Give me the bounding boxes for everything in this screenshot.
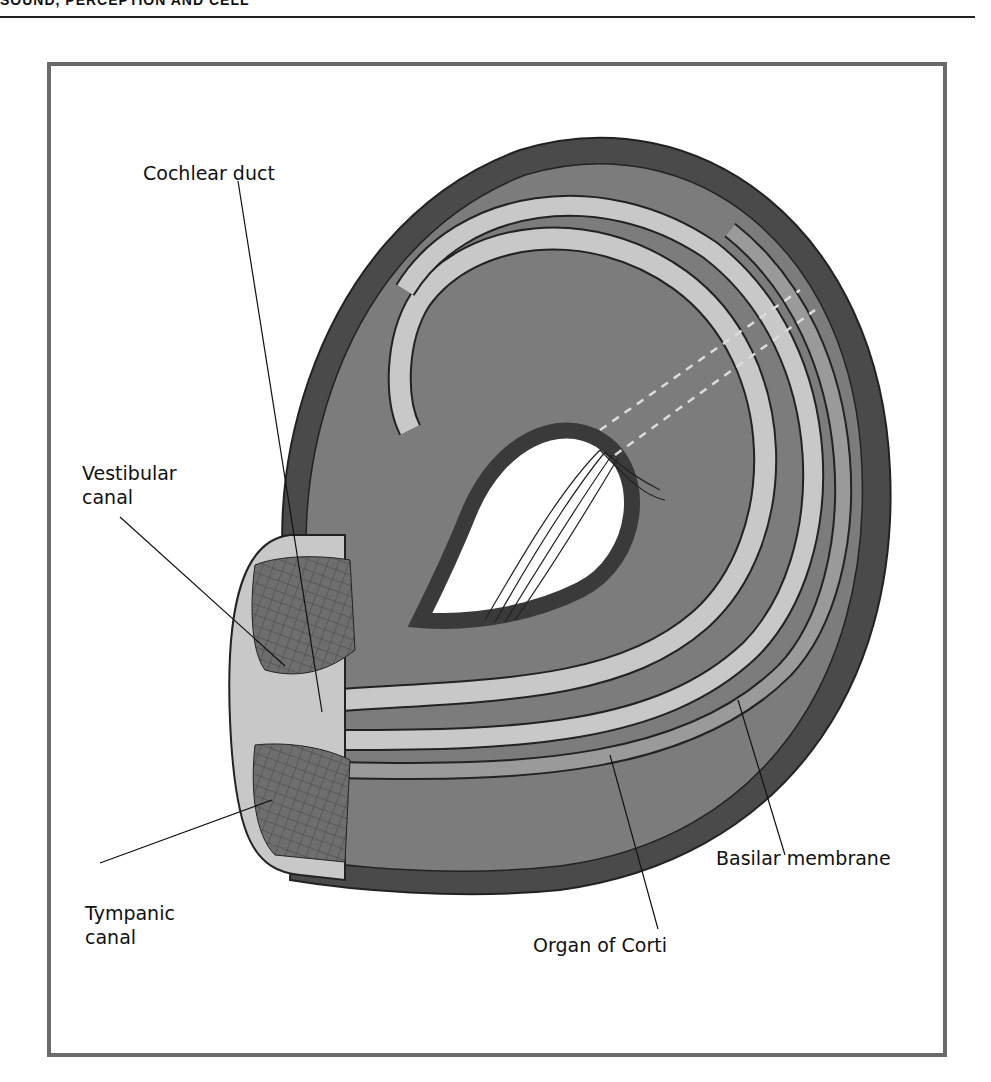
- vestibular-canal-mesh: [252, 557, 355, 674]
- label-basilar-membrane: Basilar membrane: [716, 847, 891, 869]
- label-tympanic-canal-line1: Tympanic: [85, 902, 175, 924]
- label-cochlear-duct: Cochlear duct: [143, 162, 275, 184]
- label-vestibular-canal-line1: Vestibular: [82, 462, 177, 484]
- label-organ-of-corti: Organ of Corti: [533, 934, 667, 956]
- label-tympanic-canal-line2: canal: [85, 926, 136, 948]
- tympanic-canal-mesh: [253, 744, 350, 862]
- label-vestibular-canal-line2: canal: [82, 486, 133, 508]
